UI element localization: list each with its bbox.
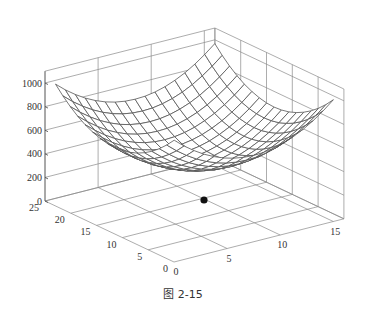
marker-dot (200, 196, 207, 203)
tick-label: 600 (27, 125, 42, 136)
figure-caption: 图 2-15 (0, 285, 366, 301)
tick-label: 0 (174, 266, 179, 277)
tick-label: 400 (27, 148, 42, 159)
tick-label: 0 (163, 263, 168, 274)
tick-label: 20 (55, 214, 65, 225)
tick-label: 10 (277, 239, 287, 250)
surface-chart: 020040060080010000510152025051015 (0, 0, 366, 318)
tick-label: 1000 (22, 78, 42, 89)
tick-label: 15 (330, 226, 340, 237)
tick-label: 10 (106, 239, 116, 250)
tick-label: 800 (27, 101, 42, 112)
tick-label: 5 (137, 251, 142, 262)
tick-label: 25 (29, 202, 39, 213)
tick-label: 5 (227, 253, 232, 264)
minimum-point-marker (200, 196, 207, 203)
tick-label: 15 (81, 226, 91, 237)
mesh-surface (56, 44, 334, 172)
tick-label: 200 (27, 172, 42, 183)
